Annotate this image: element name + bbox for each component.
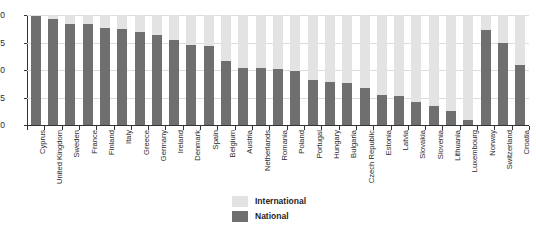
bar-column	[360, 15, 370, 125]
bar-segment-national	[342, 83, 352, 125]
chart-legend: International National	[232, 195, 382, 225]
bar-segment-national	[377, 95, 387, 125]
bar-segment-international	[152, 15, 162, 35]
bar-segment-international	[169, 15, 179, 40]
bar-segment-international	[100, 15, 110, 28]
x-axis-tick-label: Denmark	[194, 130, 202, 161]
bar-column	[152, 15, 162, 125]
bar-segment-international	[273, 15, 283, 69]
bar-segment-international	[186, 15, 196, 45]
bar-segment-international	[498, 15, 508, 43]
bar-column	[256, 15, 266, 125]
bar-column	[394, 15, 404, 125]
bar-segment-international	[429, 15, 439, 106]
x-axis-tick-label: Romania	[281, 130, 289, 160]
bar-segment-national	[221, 61, 231, 125]
bar-segment-national	[100, 28, 110, 125]
bar-segment-international	[515, 15, 525, 65]
x-axis-tick-label: Bulgaria	[350, 130, 358, 158]
bar-segment-national	[48, 19, 58, 125]
bar-segment-international	[463, 15, 473, 120]
bar-segment-international	[135, 15, 145, 32]
bar-segment-national	[117, 29, 127, 125]
bar-column	[342, 15, 352, 125]
bar-segment-national	[65, 24, 75, 125]
bar-segment-international	[342, 15, 352, 83]
bar-column	[481, 15, 491, 125]
bar-segment-international	[117, 15, 127, 29]
stacked-bar-chart: 0255075100 CyprusUnited KingdomSwedenFra…	[0, 0, 536, 234]
y-axis-tick-label: 0	[0, 121, 5, 130]
bar-segment-national	[498, 43, 508, 126]
bar-segment-national	[515, 65, 525, 126]
bar-column	[446, 15, 456, 125]
bar-segment-international	[446, 15, 456, 111]
bar-column	[100, 15, 110, 125]
bar-segment-international	[411, 15, 421, 102]
bar-segment-national	[273, 69, 283, 125]
x-axis-tick-label: Czech Republic	[368, 130, 376, 183]
bar-segment-national	[325, 82, 335, 125]
bar-column	[325, 15, 335, 125]
x-axis-tick-label: Finland	[108, 130, 116, 155]
bar-segment-international	[83, 15, 93, 24]
bar-segment-international	[221, 15, 231, 61]
bars-layer	[27, 15, 529, 125]
x-axis-tick-label: Lithuania	[454, 130, 462, 161]
bar-segment-international	[290, 15, 300, 71]
bar-segment-national	[135, 32, 145, 126]
bar-segment-international	[325, 15, 335, 82]
bar-segment-national	[308, 80, 318, 125]
x-axis-line	[27, 125, 529, 126]
bar-column	[186, 15, 196, 125]
bar-segment-national	[169, 40, 179, 125]
x-axis-tick-label: Greece	[143, 130, 151, 155]
bar-segment-international	[256, 15, 266, 68]
bar-segment-national	[256, 68, 266, 125]
bar-segment-national	[481, 30, 491, 125]
bar-column	[498, 15, 508, 125]
bar-column	[411, 15, 421, 125]
bar-segment-international	[238, 15, 248, 68]
bar-segment-national	[429, 106, 439, 125]
legend-label-national: National	[255, 212, 289, 221]
x-axis-tick-label: Hungary	[333, 130, 341, 159]
legend-swatch-national-icon	[232, 211, 248, 222]
x-axis-tick-label: France	[91, 130, 99, 154]
x-axis-tick-label: Luxembourg	[471, 130, 479, 172]
bar-column	[65, 15, 75, 125]
bar-segment-national	[411, 102, 421, 125]
y-axis-tick-label: 25	[0, 94, 5, 103]
bar-segment-national	[463, 120, 473, 126]
x-axis-tick-label: United Kingdom	[56, 130, 64, 184]
bar-column	[515, 15, 525, 125]
bar-segment-international	[204, 15, 214, 46]
bar-column	[117, 15, 127, 125]
bar-segment-national	[360, 88, 370, 125]
bar-column	[135, 15, 145, 125]
x-axis-tick-label: Slovenia	[437, 130, 445, 159]
y-axis-tick-label: 50	[0, 66, 5, 75]
bar-column	[48, 15, 58, 125]
bar-segment-national	[31, 16, 41, 125]
x-axis-tick-label: Netherlands	[264, 130, 272, 171]
bar-segment-national	[238, 68, 248, 125]
bar-column	[463, 15, 473, 125]
bar-column	[238, 15, 248, 125]
bar-column	[204, 15, 214, 125]
x-axis-tick-label: Poland	[298, 130, 306, 154]
bar-segment-international	[481, 15, 491, 30]
x-axis-tick-label: Austria	[246, 130, 254, 154]
bar-column	[273, 15, 283, 125]
x-axis-tick-label: Germany	[160, 130, 168, 161]
bar-segment-international	[308, 15, 318, 80]
x-axis-tick-label: Cyprus	[39, 130, 47, 154]
x-axis-tick-label: Estonia	[385, 130, 393, 155]
bar-column	[169, 15, 179, 125]
bar-column	[221, 15, 231, 125]
y-axis-tick-label: 75	[0, 39, 5, 48]
legend-swatch-international-icon	[232, 196, 248, 207]
bar-segment-international	[394, 15, 404, 96]
bar-column	[429, 15, 439, 125]
bar-segment-national	[83, 24, 93, 125]
